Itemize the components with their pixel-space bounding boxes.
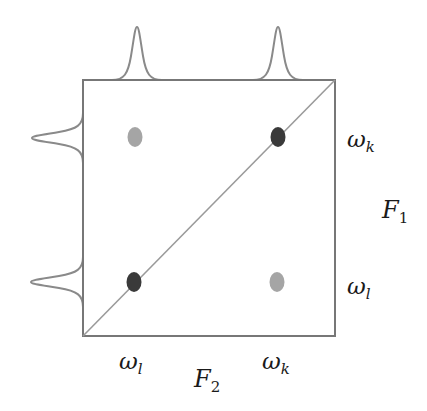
- diagonal-line: [83, 80, 335, 336]
- f1-tick-omega-k: ωk: [347, 128, 375, 155]
- 2d-spectrum-diagram: [0, 0, 427, 411]
- cross-peak-top-left: [128, 127, 143, 147]
- diagonal-peak-bottom-left: [127, 272, 142, 292]
- top-spectrum-peak-omega-k: [253, 27, 303, 80]
- left-spectrum-peak-omega-k: [32, 113, 83, 163]
- f2-tick-omega-l: ωl: [119, 350, 143, 377]
- f1-tick-omega-l: ωl: [347, 275, 371, 302]
- f2-axis-label: F2: [194, 367, 220, 395]
- top-spectrum-peak-omega-l: [112, 27, 162, 80]
- f1-axis-label: F1: [382, 198, 408, 226]
- diagonal-peak-top-right: [271, 127, 286, 147]
- cross-peak-bottom-right: [270, 272, 285, 292]
- left-spectrum-peak-omega-l: [31, 257, 83, 307]
- f2-tick-omega-k: ωk: [262, 350, 290, 377]
